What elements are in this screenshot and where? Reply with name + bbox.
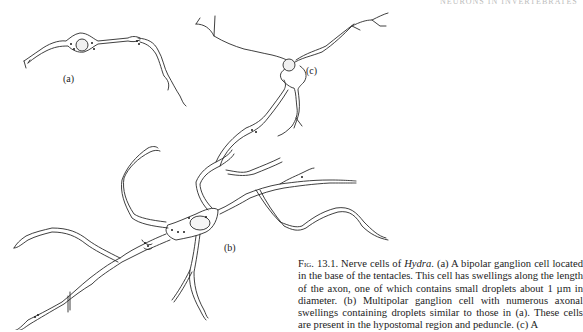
cell-a-bipolar xyxy=(24,33,186,106)
caption-genus: Hydra xyxy=(404,258,431,269)
figure-caption: Fig. 13.1. Nerve cells of Hydra. (a) A b… xyxy=(298,258,583,332)
caption-prefix: Fig. xyxy=(298,258,314,269)
caption-number: 13.1. xyxy=(317,258,338,269)
label-c: (c) xyxy=(306,65,317,76)
cell-c-tripolar xyxy=(196,13,388,136)
caption-title-pre: Nerve cells of xyxy=(338,258,404,269)
label-b: (b) xyxy=(224,242,236,253)
label-a: (a) xyxy=(63,73,74,84)
